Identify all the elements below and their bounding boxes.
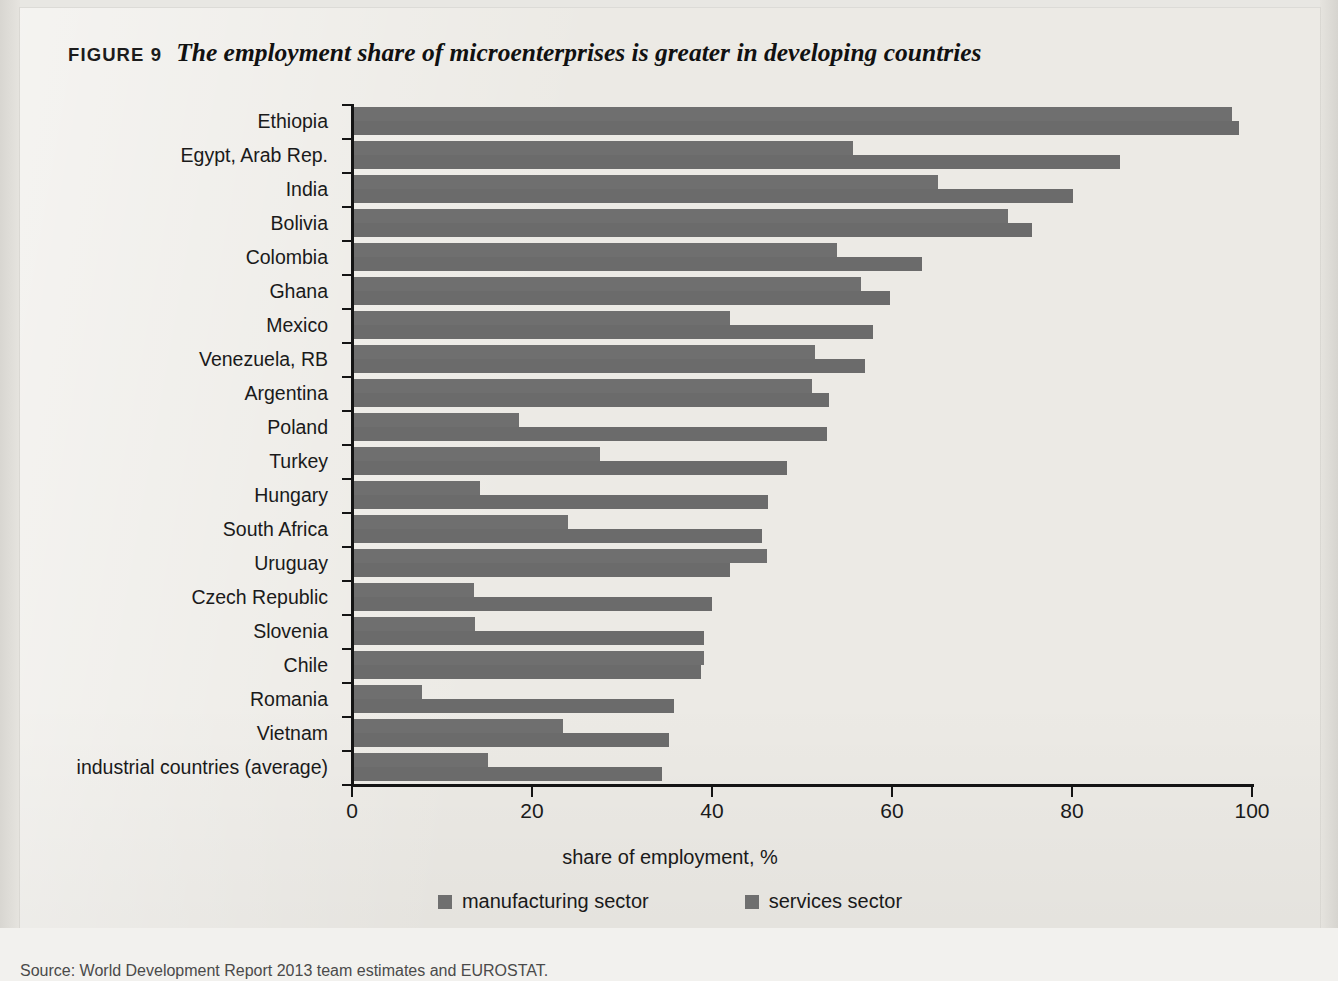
y-axis-tick: [342, 308, 352, 310]
bar-manufacturing: [352, 345, 815, 359]
x-axis-tick: [1071, 786, 1073, 797]
x-axis-tick-label: 60: [880, 799, 903, 823]
category-label: Ethiopia: [258, 110, 328, 133]
legend-swatch-services: [745, 895, 759, 909]
bar-services: [352, 733, 669, 747]
y-axis-tick: [342, 274, 352, 276]
bar-services: [352, 155, 1120, 169]
x-axis-tick: [891, 786, 893, 797]
bar-manufacturing: [352, 209, 1008, 223]
y-axis-tick: [342, 648, 352, 650]
category-label: Egypt, Arab Rep.: [181, 144, 328, 167]
bar-manufacturing: [352, 379, 812, 393]
y-axis-tick: [342, 104, 352, 106]
category-label: Vietnam: [257, 722, 328, 745]
category-label: South Africa: [223, 518, 328, 541]
chart-plot-area: EthiopiaEgypt, Arab Rep.IndiaBoliviaColo…: [20, 8, 1320, 928]
category-label: Mexico: [266, 314, 328, 337]
bar-services: [352, 631, 704, 645]
bar-services: [352, 597, 712, 611]
category-label: industrial countries (average): [77, 756, 328, 779]
y-axis-tick: [342, 172, 352, 174]
x-axis-tick: [711, 786, 713, 797]
legend-swatch-manufacturing: [438, 895, 452, 909]
category-label: Poland: [267, 416, 328, 439]
category-label: Hungary: [254, 484, 328, 507]
bar-manufacturing: [352, 515, 568, 529]
bar-manufacturing: [352, 617, 475, 631]
bar-services: [352, 393, 829, 407]
bar-manufacturing: [352, 277, 861, 291]
bar-manufacturing: [352, 311, 730, 325]
x-axis-tick: [351, 786, 353, 797]
bar-services: [352, 223, 1032, 237]
category-label: Chile: [284, 654, 328, 677]
y-axis-tick: [342, 750, 352, 752]
bar-manufacturing: [352, 685, 422, 699]
y-axis-tick: [342, 614, 352, 616]
bar-services: [352, 325, 873, 339]
legend-label-services: services sector: [769, 890, 902, 913]
bar-manufacturing: [352, 719, 563, 733]
category-label: Czech Republic: [191, 586, 328, 609]
bar-services: [352, 257, 922, 271]
y-axis-tick: [342, 138, 352, 140]
y-axis-tick: [342, 512, 352, 514]
category-axis-labels: EthiopiaEgypt, Arab Rep.IndiaBoliviaColo…: [40, 104, 340, 784]
bar-services: [352, 291, 890, 305]
x-axis-tick-label: 40: [700, 799, 723, 823]
category-label: Argentina: [245, 382, 328, 405]
bar-services: [352, 121, 1239, 135]
bar-manufacturing: [352, 175, 938, 189]
bar-manufacturing: [352, 141, 853, 155]
page-left-margin: [0, 0, 20, 981]
y-axis-tick: [342, 410, 352, 412]
y-axis-tick: [342, 240, 352, 242]
y-axis-tick: [342, 444, 352, 446]
y-axis-tick: [342, 376, 352, 378]
bar-services: [352, 189, 1073, 203]
page-right-margin: [1320, 0, 1338, 981]
bars-container: [352, 104, 1252, 784]
x-axis-title: share of employment, %: [20, 846, 1320, 869]
bar-manufacturing: [352, 413, 519, 427]
bar-services: [352, 699, 674, 713]
category-label: Venezuela, RB: [199, 348, 328, 371]
category-label: India: [286, 178, 328, 201]
y-axis-tick: [342, 206, 352, 208]
x-axis-tick: [531, 786, 533, 797]
y-axis-tick: [342, 478, 352, 480]
x-axis-tick: [1251, 786, 1253, 797]
category-label: Uruguay: [254, 552, 328, 575]
bar-services: [352, 665, 701, 679]
bar-manufacturing: [352, 651, 704, 665]
bar-manufacturing: [352, 243, 837, 257]
chart-legend: manufacturing sector services sector: [20, 890, 1320, 913]
category-label: Ghana: [269, 280, 328, 303]
x-axis-tick-label: 20: [520, 799, 543, 823]
category-label: Slovenia: [253, 620, 328, 643]
legend-label-manufacturing: manufacturing sector: [462, 890, 649, 913]
bar-services: [352, 563, 730, 577]
bar-manufacturing: [352, 447, 600, 461]
bar-manufacturing: [352, 549, 767, 563]
bar-services: [352, 461, 787, 475]
y-axis-tick: [342, 546, 352, 548]
x-axis-tick-label: 0: [346, 799, 358, 823]
x-axis-line: [351, 784, 1254, 787]
bar-services: [352, 767, 662, 781]
figure-panel: FIGURE 9The employment share of microent…: [20, 8, 1320, 928]
bar-manufacturing: [352, 481, 480, 495]
legend-item-services[interactable]: services sector: [745, 890, 902, 913]
bar-services: [352, 529, 762, 543]
y-axis-tick: [342, 716, 352, 718]
y-axis-tick: [342, 580, 352, 582]
y-axis-tick: [342, 682, 352, 684]
y-axis-tick: [342, 342, 352, 344]
bar-services: [352, 359, 865, 373]
bar-manufacturing: [352, 583, 474, 597]
bar-manufacturing: [352, 753, 488, 767]
source-note: Source: World Development Report 2013 te…: [20, 962, 548, 980]
legend-item-manufacturing[interactable]: manufacturing sector: [438, 890, 649, 913]
category-label: Bolivia: [271, 212, 328, 235]
